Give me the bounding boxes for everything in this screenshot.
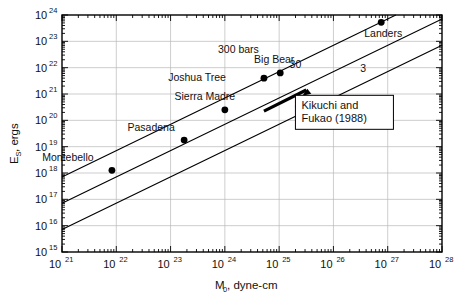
svg-text:10: 10 [35, 193, 47, 205]
svg-text:23: 23 [49, 32, 57, 41]
svg-text:10: 10 [375, 258, 387, 270]
svg-text:10: 10 [212, 258, 224, 270]
annotation-text-line2: Fukao (1988) [301, 112, 366, 124]
y-tick-label: 1018 [35, 164, 57, 179]
svg-text:10: 10 [157, 258, 169, 270]
svg-text:17: 17 [49, 190, 57, 199]
svg-text:10: 10 [35, 167, 47, 179]
svg-text:10: 10 [320, 258, 332, 270]
y-tick-label: 1016 [35, 217, 57, 232]
svg-text:22: 22 [49, 59, 57, 68]
x-tick-label: 1023 [157, 255, 181, 270]
stress-drop-label: 300 bars [218, 43, 259, 55]
svg-text:, dyne-cm: , dyne-cm [227, 279, 278, 291]
y-axis-title: ES, ergs [8, 123, 23, 164]
data-point-label: Joshua Tree [168, 71, 226, 83]
y-tick-labels: 1015101610171018101910201021102210231024 [35, 6, 57, 258]
data-point-label: Montebello [42, 151, 94, 163]
svg-text:10: 10 [35, 88, 47, 100]
svg-text:10: 10 [35, 220, 47, 232]
x-tick-label: 1025 [266, 255, 290, 270]
stress-drop-label: 3 [360, 62, 366, 74]
svg-text:28: 28 [445, 255, 453, 264]
svg-text:27: 27 [391, 255, 399, 264]
svg-text:10: 10 [35, 62, 47, 74]
svg-text:10: 10 [35, 246, 47, 258]
svg-text:23: 23 [174, 255, 182, 264]
data-point-marker[interactable] [378, 19, 385, 26]
svg-text:15: 15 [49, 243, 57, 252]
svg-text:18: 18 [49, 164, 57, 173]
y-tick-label: 1024 [35, 6, 57, 21]
svg-text:26: 26 [336, 255, 344, 264]
svg-text:, ergs: , ergs [8, 123, 20, 152]
x-axis-title: M0, dyne-cm [215, 279, 278, 294]
x-tick-label: 1026 [320, 255, 344, 270]
chart-canvas: 300 bars303Kikuchi andFukao (1988)Monteb… [0, 0, 463, 297]
y-tick-label: 1023 [35, 32, 57, 47]
data-point-marker[interactable] [261, 75, 268, 82]
svg-text:10: 10 [35, 114, 47, 126]
x-tick-label: 1027 [375, 255, 399, 270]
data-point-label: Landers [364, 27, 402, 39]
y-tick-label: 1021 [35, 85, 57, 100]
y-tick-label: 1017 [35, 190, 57, 205]
x-tick-label: 1024 [212, 255, 236, 270]
svg-text:10: 10 [429, 258, 441, 270]
svg-text:21: 21 [65, 255, 73, 264]
svg-text:24: 24 [228, 255, 236, 264]
svg-text:10: 10 [35, 9, 47, 21]
svg-text:24: 24 [49, 6, 57, 15]
svg-text:25: 25 [282, 255, 290, 264]
annotation-text-line1: Kikuchi and [301, 99, 358, 111]
svg-text:21: 21 [49, 85, 57, 94]
x-tick-label: 1028 [429, 255, 453, 270]
svg-text:16: 16 [49, 217, 57, 226]
y-tick-label: 1022 [35, 59, 57, 74]
data-point-label: Sierra Madre [175, 90, 236, 102]
svg-text:10: 10 [35, 35, 47, 47]
svg-text:10: 10 [103, 258, 115, 270]
data-point-label: Big Bear [254, 53, 295, 65]
x-tick-label: 1022 [103, 255, 127, 270]
svg-text:22: 22 [119, 255, 127, 264]
y-tick-label: 1020 [35, 111, 57, 126]
data-point-marker[interactable] [277, 70, 284, 77]
svg-text:19: 19 [49, 138, 57, 147]
svg-text:10: 10 [266, 258, 278, 270]
svg-text:10: 10 [35, 141, 47, 153]
figure-container: 300 bars303Kikuchi andFukao (1988)Monteb… [0, 0, 463, 297]
svg-text:20: 20 [49, 111, 57, 120]
svg-text:10: 10 [49, 258, 61, 270]
data-point-label: Pasadena [127, 121, 174, 133]
data-point-marker[interactable] [181, 137, 188, 144]
x-tick-labels: 10211022102310241025102610271028 [49, 255, 453, 270]
y-tick-label: 1015 [35, 243, 57, 258]
data-point-marker[interactable] [109, 167, 116, 174]
x-tick-label: 1021 [49, 255, 73, 270]
data-point-marker[interactable] [221, 106, 228, 113]
